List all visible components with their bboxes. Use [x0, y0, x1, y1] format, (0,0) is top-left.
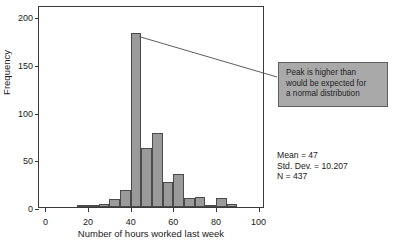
histogram-bar: [77, 205, 88, 207]
x-axis-tick-label: 0: [43, 218, 48, 227]
x-axis-title: Number of hours worked last week: [38, 228, 264, 239]
histogram-bar: [120, 190, 131, 207]
histogram-bar: [109, 199, 120, 207]
y-axis-tick-mark: [35, 161, 39, 162]
histogram-bar: [216, 198, 227, 207]
histogram-bar: [205, 205, 216, 207]
stat-std-dev: Std. Dev. = 10.207: [277, 161, 348, 172]
x-axis-tick-label: 80: [211, 218, 221, 227]
x-axis-tick-label: 100: [251, 218, 266, 227]
y-axis-tick-label: 100: [5, 109, 39, 118]
histogram-bar: [227, 204, 238, 207]
histogram-bar: [99, 204, 110, 207]
histogram-bar: [195, 197, 206, 207]
y-axis-tick-label: 200: [5, 14, 39, 23]
y-axis-tick-mark: [35, 66, 39, 67]
annotation-callout: Peak is higher than would be expected fo…: [278, 62, 388, 107]
x-axis-tick-mark: [259, 207, 260, 212]
annotation-line-2: would be expected for: [286, 79, 381, 90]
x-axis-tick-label: 60: [168, 218, 178, 227]
statistics-block: Mean = 47 Std. Dev. = 10.207 N = 437: [277, 150, 348, 182]
stat-mean: Mean = 47: [277, 150, 348, 161]
y-axis-tick-mark: [35, 114, 39, 115]
histogram-bar: [173, 174, 184, 207]
annotation-line-3: a normal distribution: [286, 89, 381, 100]
y-axis-tick-mark: [35, 209, 39, 210]
x-axis-tick-mark: [88, 207, 89, 212]
x-axis-tick-mark: [173, 207, 174, 212]
histogram-bar: [184, 198, 195, 207]
y-axis-tick-mark: [35, 18, 39, 19]
histogram-bar: [152, 133, 163, 207]
histogram-bar: [88, 205, 99, 207]
x-axis-tick-mark: [216, 207, 217, 212]
x-axis-tick-mark: [131, 207, 132, 212]
x-axis-tick-label: 40: [126, 218, 136, 227]
y-axis-tick-label: 0: [5, 205, 39, 214]
histogram-figure: 050100150200 020406080100 Frequency Numb…: [0, 0, 399, 245]
y-axis-title: Frequency: [2, 50, 12, 95]
x-axis-tick-mark: [45, 207, 46, 212]
plot-area: 050100150200 020406080100: [38, 6, 264, 208]
histogram-bar: [141, 148, 152, 207]
stat-n: N = 437: [277, 171, 348, 182]
bars-layer: [39, 7, 263, 207]
x-axis-tick-label: 20: [83, 218, 93, 227]
y-axis-tick-label: 50: [5, 157, 39, 166]
histogram-bar: [131, 33, 142, 207]
annotation-line-1: Peak is higher than: [286, 68, 381, 79]
histogram-bar: [163, 182, 174, 207]
